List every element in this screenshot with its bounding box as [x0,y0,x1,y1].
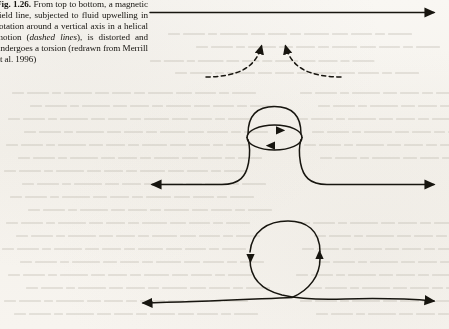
figure-caption: Fig. 1.26. From top to bottom, a magneti… [0,0,148,64]
upwelling-flow-lines [206,46,341,77]
rotation-ellipse-front [247,138,302,151]
field-line-bottom-loop-top [250,221,320,252]
field-line-middle-right [299,140,434,185]
field-line-middle-bulge-top [248,107,301,135]
field-line-middle-left [152,140,250,185]
upwelling-flow-right [286,46,342,77]
stage-torsioned-field-line [143,221,434,303]
figure-label: Fig. 1.26. [0,0,31,9]
rotation-ellipse [247,125,302,150]
stage-distorted-field-line [152,107,434,185]
upwelling-flow-left [206,46,262,77]
field-line-bottom-right [250,259,434,301]
rotation-ellipse-back [247,125,302,138]
figure-page: Fig. 1.26. From top to bottom, a magneti… [0,0,449,329]
field-line-bottom-left [143,259,320,303]
caption-emphasis: dashed lines [30,32,78,42]
